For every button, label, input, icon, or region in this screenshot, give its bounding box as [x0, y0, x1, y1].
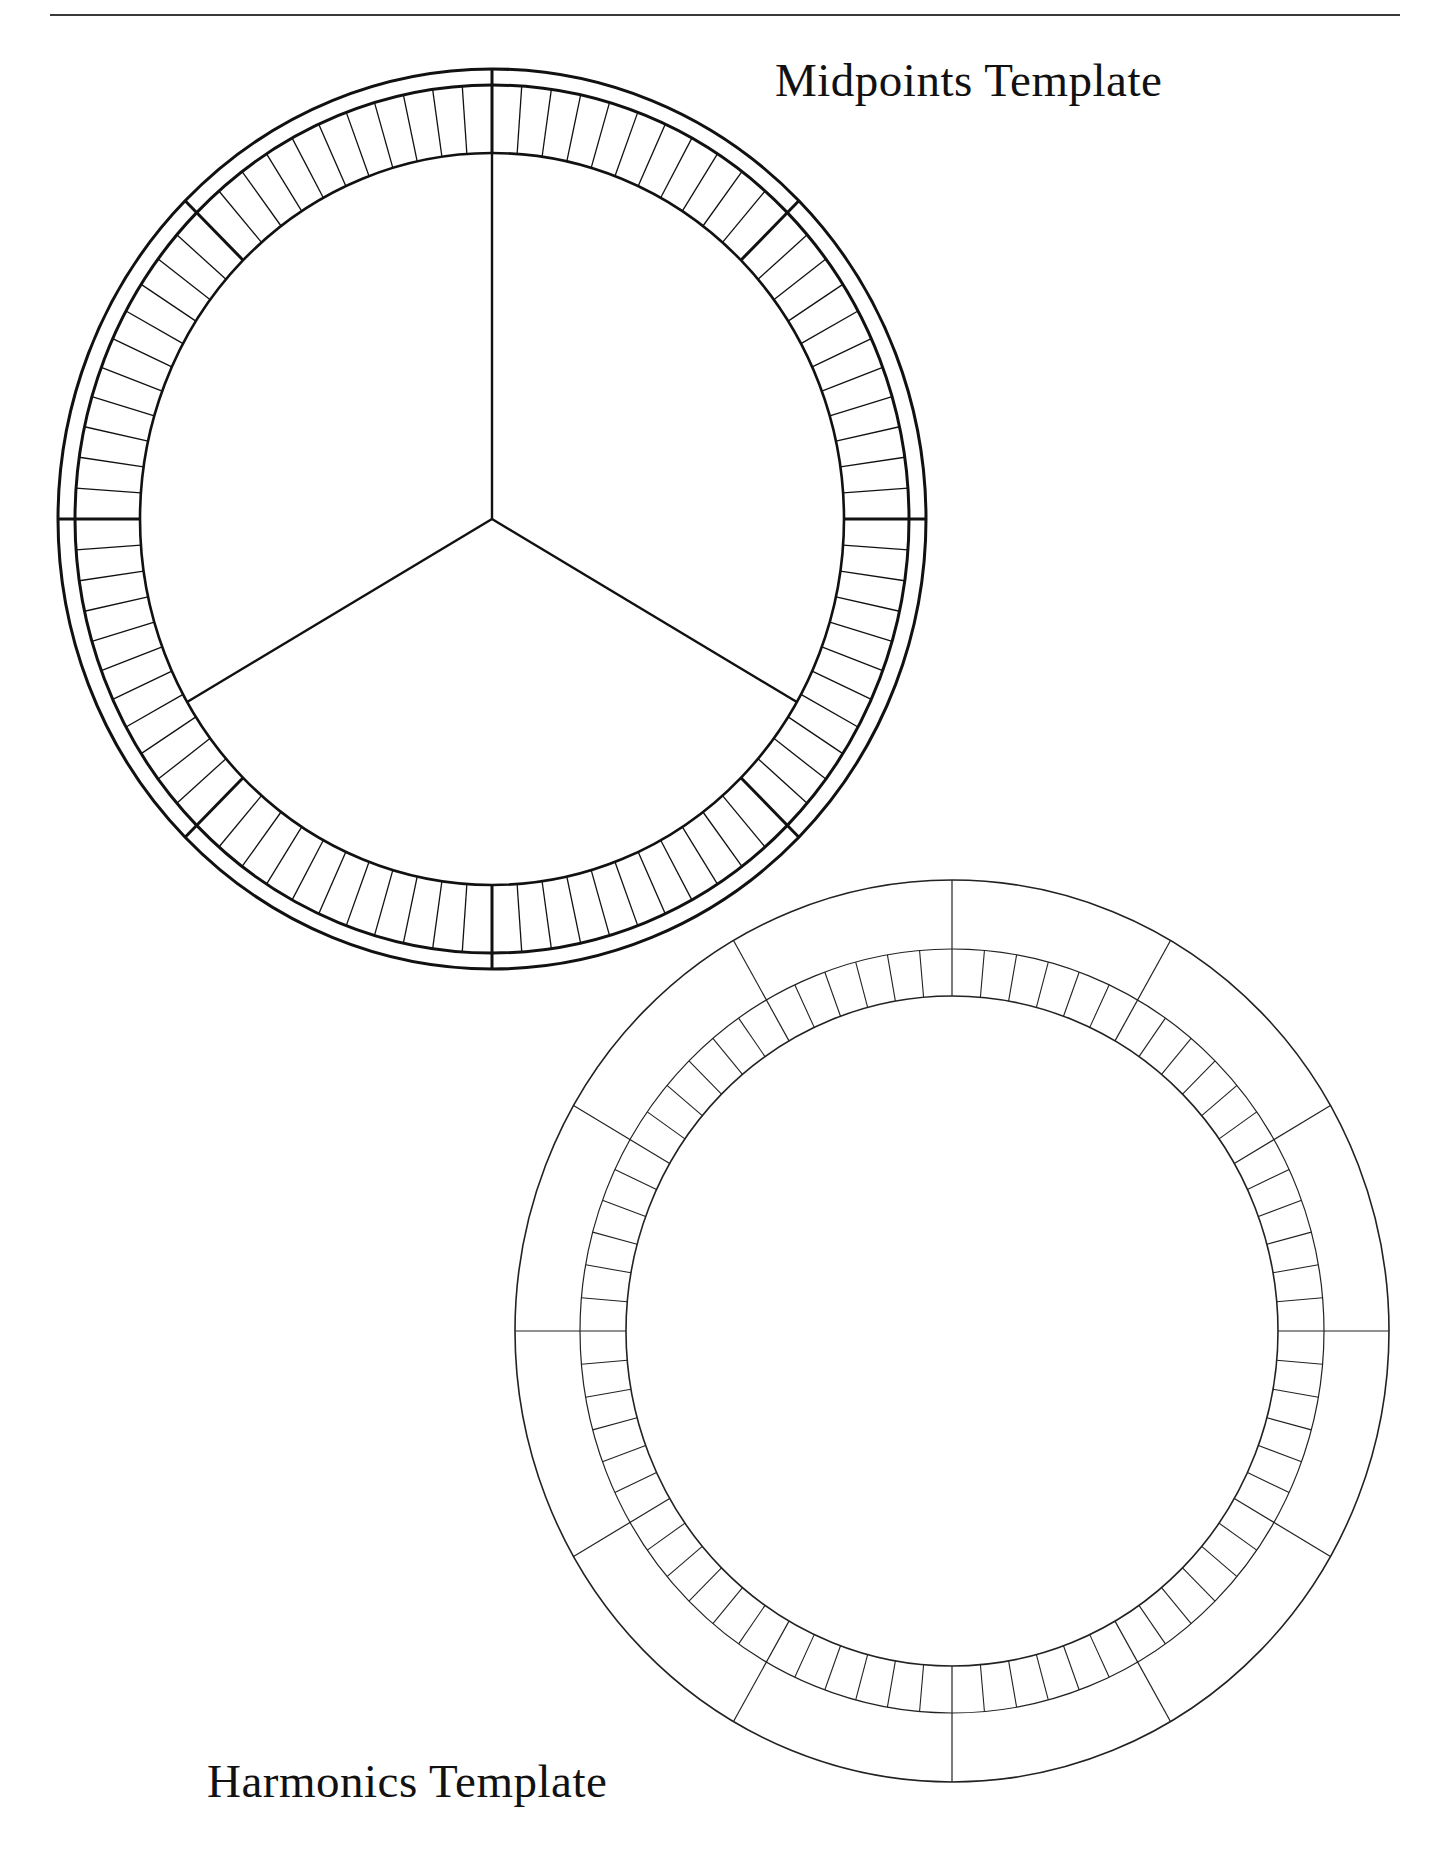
minor-tick [1219, 1523, 1257, 1550]
minor-tick [581, 1360, 627, 1364]
harmonics-title: Harmonics Template [207, 1758, 607, 1805]
minor-tick [1202, 1085, 1237, 1115]
minor-tick [1139, 1018, 1165, 1057]
minor-tick [1063, 1646, 1079, 1690]
minor-tick [689, 1061, 722, 1094]
minor-tick [1273, 1265, 1318, 1273]
minor-tick [1267, 1418, 1311, 1430]
sector-spoke [734, 1621, 790, 1721]
tick-ring-inner [626, 996, 1278, 1666]
minor-tick [739, 1605, 765, 1644]
minor-tick [1162, 1588, 1192, 1624]
minor-tick [667, 1546, 702, 1576]
minor-tick [1036, 962, 1048, 1007]
minor-tick [586, 1265, 631, 1273]
minor-tick [856, 1655, 868, 1700]
minor-tick [856, 962, 868, 1007]
minor-tick [689, 1568, 722, 1601]
outer-ring [515, 880, 1389, 1782]
minor-tick [825, 1646, 841, 1690]
minor-tick [615, 1170, 657, 1190]
minor-tick [980, 950, 984, 997]
minor-tick [887, 1661, 895, 1707]
minor-tick [615, 1473, 657, 1493]
minor-tick [1090, 985, 1109, 1028]
minor-tick [593, 1232, 637, 1244]
minor-tick [980, 1665, 984, 1712]
minor-tick [713, 1588, 743, 1624]
minor-tick [1063, 972, 1079, 1016]
minor-tick [586, 1389, 631, 1397]
minor-tick [1139, 1605, 1165, 1644]
minor-tick [795, 985, 814, 1028]
minor-tick [1277, 1360, 1323, 1364]
minor-tick [1009, 955, 1017, 1001]
minor-tick [1036, 1655, 1048, 1700]
sector-spoke [734, 940, 790, 1040]
minor-tick [667, 1085, 702, 1115]
sector-spoke [1115, 940, 1171, 1040]
minor-tick [602, 1446, 645, 1462]
minor-tick [920, 950, 924, 997]
minor-tick [1090, 1635, 1109, 1678]
minor-tick [581, 1298, 627, 1302]
minor-tick [920, 1665, 924, 1712]
minor-tick [1183, 1568, 1216, 1601]
minor-tick [602, 1200, 645, 1216]
minor-tick [1162, 1038, 1192, 1074]
minor-tick [1258, 1200, 1301, 1216]
minor-tick [593, 1418, 637, 1430]
minor-tick [1267, 1232, 1311, 1244]
minor-tick [1258, 1446, 1301, 1462]
minor-tick [825, 972, 841, 1016]
minor-tick [739, 1018, 765, 1057]
minor-tick [1219, 1112, 1257, 1139]
minor-tick [1247, 1170, 1289, 1190]
harmonics-dial [0, 0, 1440, 1866]
minor-tick [647, 1523, 685, 1550]
minor-tick [1277, 1298, 1323, 1302]
minor-tick [795, 1635, 814, 1678]
minor-tick [647, 1112, 685, 1139]
minor-tick [713, 1038, 743, 1074]
minor-tick [1009, 1661, 1017, 1707]
minor-tick [1183, 1061, 1216, 1094]
minor-tick [1247, 1473, 1289, 1493]
sector-spoke [1115, 1621, 1171, 1721]
minor-tick [887, 955, 895, 1001]
minor-tick [1273, 1389, 1318, 1397]
minor-tick [1202, 1546, 1237, 1576]
